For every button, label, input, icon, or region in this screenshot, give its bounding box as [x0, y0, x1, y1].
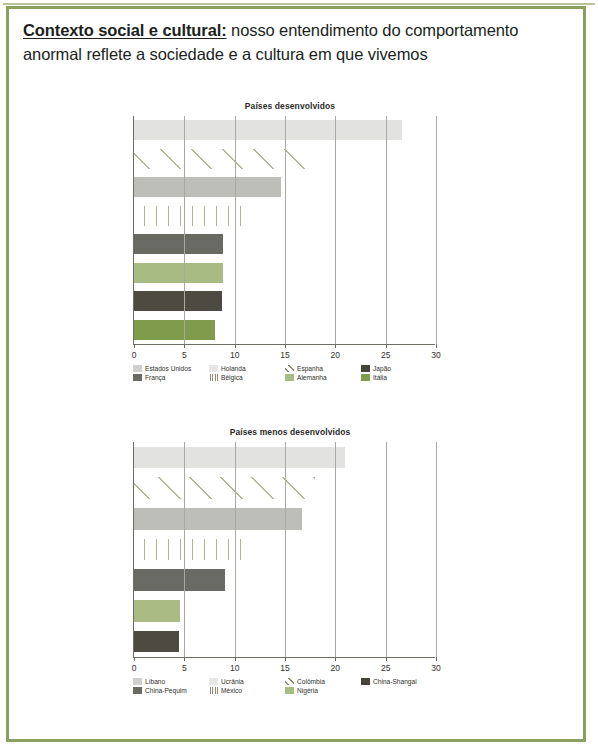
axis-tick [436, 344, 437, 348]
gridline [436, 442, 437, 657]
legend-item: França [133, 374, 166, 381]
plot-wrapper: 051015202530 [133, 442, 435, 658]
bar [134, 539, 250, 561]
legend-item: China-Pequim [133, 687, 187, 694]
gridline [184, 442, 185, 657]
gridline [285, 442, 286, 657]
axis-tick-label: 25 [381, 663, 390, 673]
legend-label: França [145, 374, 166, 381]
axis-tick [436, 657, 437, 661]
axis-tick [184, 344, 185, 348]
legend-swatch-icon [285, 365, 294, 372]
legend-swatch-icon [133, 678, 142, 685]
bar [134, 177, 281, 197]
gridline [386, 442, 387, 657]
page-title: Contexto social e cultural: nosso entend… [23, 19, 569, 67]
bar [134, 477, 315, 499]
legend-label: Alemanha [297, 374, 327, 381]
axis-tick-label: 10 [230, 663, 239, 673]
bar [134, 508, 302, 530]
legend-label: China-Shangai [373, 678, 417, 685]
legend-item: Ucrânia [209, 678, 244, 685]
bar [134, 149, 315, 169]
gridline [335, 442, 336, 657]
legend-label: Estados Unidos [145, 365, 191, 372]
axis-tick-label: 15 [280, 350, 289, 360]
axis-tick-label: 15 [280, 663, 289, 673]
gridline [235, 116, 236, 344]
legend-label: Holanda [221, 365, 246, 372]
chart-title: Países menos desenvolvidos [105, 427, 475, 437]
axis-tick [134, 657, 135, 661]
legend-label: Nigéria [297, 687, 318, 694]
axis-tick [285, 344, 286, 348]
axis-tick-label: 20 [331, 350, 340, 360]
chart-title: Países desenvolvidos [105, 101, 475, 111]
slide-frame: Contexto social e cultural: nosso entend… [6, 6, 586, 742]
legend-swatch-icon [209, 687, 218, 694]
legend-swatch-icon [209, 678, 218, 685]
legend-item: Bélgica [209, 374, 243, 381]
legend-swatch-icon [361, 365, 370, 372]
plot-wrapper: 051015202530 [133, 116, 435, 345]
legend-label: Colômbia [297, 678, 325, 685]
axis-tick-label: 30 [431, 663, 440, 673]
legend-item: Itália [361, 374, 387, 381]
bar [134, 206, 250, 226]
legend-label: Itália [373, 374, 387, 381]
legend-item: China-Shangai [361, 678, 417, 685]
legend-item: Colômbia [285, 678, 325, 685]
bar [134, 320, 215, 340]
gridline [285, 116, 286, 344]
legend-swatch-icon [285, 374, 294, 381]
chart-legend: Estados UnidosHolandaEspanhaJapãoFrançaB… [133, 365, 435, 381]
gridline [235, 442, 236, 657]
axis-tick [235, 344, 236, 348]
legend-label: Bélgica [221, 374, 243, 381]
legend-item: Alemanha [285, 374, 327, 381]
plot-area: 051015202530 [133, 442, 435, 658]
axis-tick [134, 344, 135, 348]
bar [134, 631, 179, 653]
legend-swatch-icon [285, 687, 294, 694]
axis-tick [386, 344, 387, 348]
axis-tick-label: 20 [331, 663, 340, 673]
gridline [184, 116, 185, 344]
axis-tick [184, 657, 185, 661]
legend-item: Japão [361, 365, 391, 372]
legend-label: México [221, 687, 242, 694]
axis-tick-label: 0 [132, 350, 137, 360]
axis-tick-label: 5 [182, 663, 187, 673]
legend-label: Espanha [297, 365, 323, 372]
bar [134, 447, 345, 469]
legend-label: Líbano [145, 678, 165, 685]
axis-tick [386, 657, 387, 661]
legend-item: Estados Unidos [133, 365, 191, 372]
legend-swatch-icon [361, 374, 370, 381]
chart-legend: LíbanoUcrâniaColômbiaChina-ShangaiChina-… [133, 678, 435, 694]
axis-tick [285, 657, 286, 661]
plot-area: 051015202530 [133, 116, 435, 345]
gridline [335, 116, 336, 344]
axis-tick-label: 0 [132, 663, 137, 673]
legend-swatch-icon [133, 365, 142, 372]
axis-tick [335, 657, 336, 661]
legend-swatch-icon [209, 374, 218, 381]
legend-swatch-icon [361, 678, 370, 685]
legend-swatch-icon [209, 365, 218, 372]
legend-swatch-icon [133, 374, 142, 381]
axis-tick-label: 25 [381, 350, 390, 360]
legend-item: México [209, 687, 242, 694]
headline-emphasis: Contexto social e cultural: [23, 21, 227, 39]
legend-item: Espanha [285, 365, 323, 372]
gridline [436, 116, 437, 344]
legend-item: Nigéria [285, 687, 318, 694]
bar [134, 600, 180, 622]
legend-label: China-Pequim [145, 687, 187, 694]
bar [134, 291, 222, 311]
axis-tick-label: 30 [431, 350, 440, 360]
bar [134, 263, 223, 283]
legend-item: Holanda [209, 365, 246, 372]
legend-swatch-icon [285, 678, 294, 685]
axis-tick [235, 657, 236, 661]
